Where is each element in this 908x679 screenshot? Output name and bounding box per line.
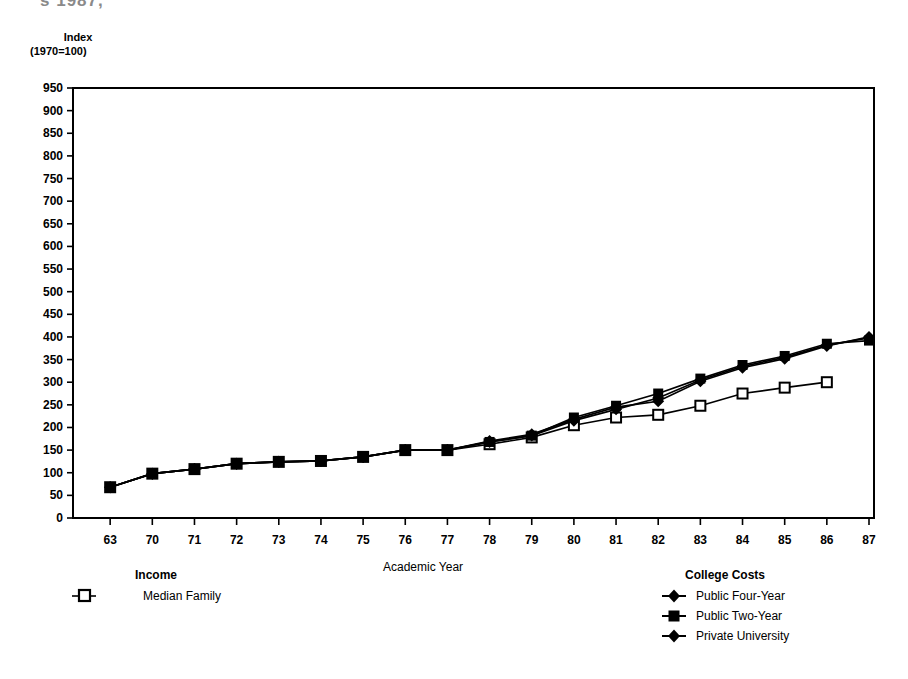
y-tick-label: 550: [43, 262, 63, 276]
y-tick-label: 500: [43, 285, 63, 299]
y-tick-label: 750: [43, 172, 63, 186]
y-tick-label: 450: [43, 307, 63, 321]
y-axis-unit-line2: (1970=100): [30, 44, 126, 58]
x-tick-label: 87: [862, 533, 876, 547]
y-tick-label: 650: [43, 217, 63, 231]
x-tick-label: 77: [441, 533, 455, 547]
data-point-marker: [822, 377, 832, 387]
cut-off-title: s 1987,: [40, 0, 104, 11]
legend-income-label-0: Median Family: [143, 589, 221, 603]
legend-income-title: Income: [135, 568, 221, 582]
x-tick-label: 71: [188, 533, 202, 547]
x-tick-label: 72: [230, 533, 244, 547]
x-tick-label: 86: [820, 533, 834, 547]
x-tick-label: 74: [314, 533, 328, 547]
x-tick-label: 76: [399, 533, 413, 547]
legend-item-public-two-year[interactable]: Public Two-Year: [660, 606, 789, 626]
y-tick-label: 350: [43, 353, 63, 367]
x-tick-label: 75: [356, 533, 370, 547]
x-tick-label: 78: [483, 533, 497, 547]
y-tick-label: 200: [43, 420, 63, 434]
x-tick-label: 63: [103, 533, 117, 547]
x-tick-label: 80: [567, 533, 581, 547]
open-square-marker: [70, 588, 98, 604]
data-point-marker: [780, 383, 790, 393]
x-tick-label: 82: [652, 533, 666, 547]
x-tick-label: 70: [146, 533, 160, 547]
data-point-marker: [653, 410, 663, 420]
filled-diamond-marker: [660, 588, 688, 604]
series-public-two-year: [105, 336, 874, 493]
legend-item-private-university[interactable]: Private University: [660, 626, 789, 646]
y-tick-label: 100: [43, 466, 63, 480]
y-tick-label: 0: [56, 511, 63, 525]
filled-square-marker: [660, 608, 688, 624]
legend-costs-label-0: Public Four-Year: [696, 589, 785, 603]
legend-college-costs-title: College Costs: [685, 568, 789, 582]
data-point-marker: [738, 389, 748, 399]
legend-costs-label-1: Public Two-Year: [696, 609, 782, 623]
x-tick-label: 83: [694, 533, 708, 547]
y-tick-label: 300: [43, 375, 63, 389]
y-tick-label: 600: [43, 239, 63, 253]
x-tick-label: 85: [778, 533, 792, 547]
x-axis-title: Academic Year: [383, 560, 463, 574]
filled-diamond-marker: [660, 628, 688, 644]
legend-income: Income Median Family: [70, 568, 221, 606]
y-tick-label: 150: [43, 443, 63, 457]
legend-item-public-four-year[interactable]: Public Four-Year: [660, 586, 789, 606]
x-tick-label: 79: [525, 533, 539, 547]
y-tick-label: 50: [50, 488, 64, 502]
series-private-university: [104, 331, 875, 493]
plot-area: 0501001502002503003504004505005506006507…: [0, 0, 908, 560]
y-tick-label: 900: [43, 104, 63, 118]
y-tick-label: 850: [43, 126, 63, 140]
series-public-four-year: [104, 332, 875, 493]
y-tick-label: 950: [43, 81, 63, 95]
x-tick-label: 73: [272, 533, 286, 547]
y-axis-unit-line1: Index: [30, 30, 126, 44]
y-tick-label: 250: [43, 398, 63, 412]
legend-item-median-family[interactable]: Median Family: [70, 586, 221, 606]
data-point-marker: [695, 401, 705, 411]
x-tick-label: 84: [736, 533, 750, 547]
chart-figure: s 1987, Index (1970=100) 050100150200250…: [0, 0, 908, 679]
series-median-family: [105, 377, 832, 492]
legend-college-costs: College Costs Public Four-Year Public Tw…: [660, 568, 789, 646]
legend-costs-label-2: Private University: [696, 629, 789, 643]
y-tick-label: 400: [43, 330, 63, 344]
y-axis-unit-label: Index (1970=100): [30, 30, 126, 58]
y-tick-label: 700: [43, 194, 63, 208]
x-tick-label: 81: [609, 533, 623, 547]
y-tick-label: 800: [43, 149, 63, 163]
